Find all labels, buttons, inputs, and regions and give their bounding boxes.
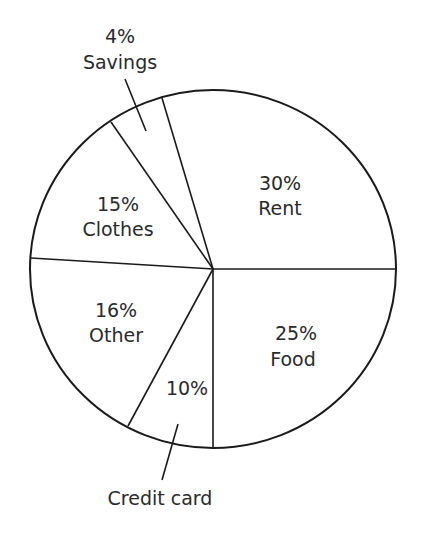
food-percent: 25%: [275, 322, 317, 344]
rent-percent: 30%: [259, 172, 301, 194]
other-label: Other: [89, 324, 143, 346]
other-percent: 16%: [95, 299, 137, 321]
credit-card-percent: 10%: [166, 377, 208, 399]
clothes-label: Clothes: [82, 218, 153, 240]
savings-percent: 4%: [105, 25, 135, 47]
food-label: Food: [270, 348, 316, 370]
savings-label: Savings: [83, 51, 157, 73]
rent-label: Rent: [258, 197, 302, 219]
credit-card-label: Credit card: [108, 487, 213, 509]
clothes-percent: 15%: [97, 193, 139, 215]
pie-chart: 4% Savings 30% Rent 15% Clothes 16% Othe…: [0, 0, 423, 533]
